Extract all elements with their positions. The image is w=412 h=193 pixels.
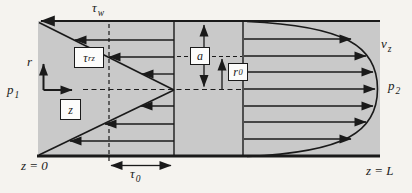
shear-profile-upper-line bbox=[39, 23, 174, 91]
p1-label: p1 bbox=[7, 83, 19, 102]
r-axis-label: r bbox=[27, 55, 32, 69]
a-base: a bbox=[197, 50, 203, 62]
velocity-arrows bbox=[244, 39, 375, 139]
z-equals-L-label: z = L bbox=[366, 164, 394, 178]
a-box-label: a bbox=[190, 47, 210, 65]
p2-label: p2 bbox=[388, 79, 400, 98]
tau0-label: τ0 bbox=[130, 167, 140, 186]
r0-sub: 0 bbox=[238, 66, 242, 78]
pipe-flow-diagram: τrz z a r0 τw r p1 p2 vz τ0 z = 0 z = L bbox=[0, 0, 412, 193]
tau-rz-sub: rz bbox=[88, 52, 95, 64]
z-equals-0-label: z = 0 bbox=[21, 159, 48, 173]
r0-base: r bbox=[233, 66, 238, 78]
diagram-linework bbox=[0, 0, 412, 193]
tau-w-label: τw bbox=[92, 1, 104, 20]
r0-box-label: r0 bbox=[228, 63, 248, 81]
coordinate-axes bbox=[44, 64, 73, 90]
z-box-label: z bbox=[60, 99, 81, 120]
tau-rz-box-label: τrz bbox=[74, 47, 104, 68]
vz-label: vz bbox=[381, 37, 391, 56]
tau-rz-base: τ bbox=[83, 52, 87, 64]
z-base: z bbox=[68, 104, 73, 116]
